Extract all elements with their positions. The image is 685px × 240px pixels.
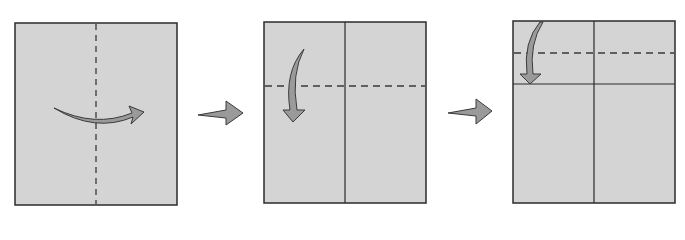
next-step-arrow-icon — [448, 99, 492, 124]
step-1-panel — [15, 23, 177, 205]
step-2-panel — [264, 22, 426, 203]
next-step-arrow-icon — [198, 101, 243, 125]
fold-diagram — [0, 0, 685, 240]
step-3-panel — [513, 21, 675, 203]
